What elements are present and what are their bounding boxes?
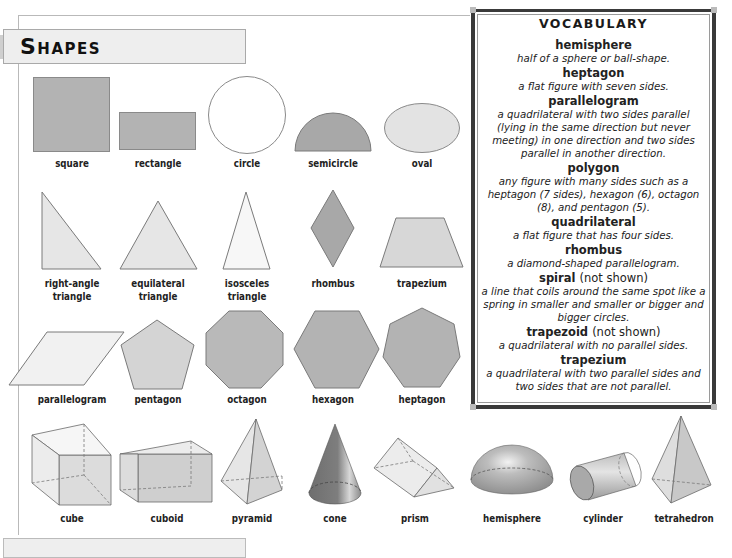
prism-shape <box>373 437 457 499</box>
cube-label: cube <box>28 512 116 525</box>
vocab-term: parallelogram <box>479 95 708 108</box>
parallelogram-shape <box>8 331 126 387</box>
vocab-definition: a flat figure with seven sides. <box>479 80 708 93</box>
cube-shape <box>31 423 113 507</box>
right-angle-triangle-label: right-angle triangle <box>28 277 116 303</box>
prism-label: prism <box>371 512 459 525</box>
rectangle-shape <box>119 112 197 152</box>
tetrahedron-shape <box>651 415 715 505</box>
vocab-term: heptagon <box>479 67 708 80</box>
corner-ornament <box>470 404 476 410</box>
cuboid-label: cuboid <box>123 512 211 525</box>
vocab-definition: any figure with many sides such as a hep… <box>479 175 708 214</box>
tetrahedron-label: tetrahedron <box>640 512 728 525</box>
isosceles-triangle-label: isosceles triangle <box>203 277 291 303</box>
title-banner: Shapes <box>3 29 246 64</box>
rectangle-label: rectangle <box>114 157 202 170</box>
equilateral-triangle-label: equilateral triangle <box>114 277 202 303</box>
vocab-term: trapezoid (not shown) <box>479 326 708 339</box>
hemisphere-shape <box>469 444 555 498</box>
isosceles-triangle-shape <box>222 191 272 271</box>
square-shape <box>33 77 111 153</box>
trapezium-shape <box>379 217 465 269</box>
parallelogram-label: parallelogram <box>28 393 116 406</box>
trapezium-label: trapezium <box>378 277 466 290</box>
vocab-term: spiral (not shown) <box>479 272 708 285</box>
corner-ornament <box>711 404 717 410</box>
vocab-term: trapezium <box>479 354 708 367</box>
cone-shape <box>307 423 363 507</box>
pyramid-shape <box>220 418 284 506</box>
cylinder-shape <box>564 450 642 506</box>
vocab-definition: half of a sphere or ball-shape. <box>479 52 708 65</box>
vocab-definition: a quadrilateral with two parallel sides … <box>479 367 708 393</box>
frame-top-line <box>18 15 470 16</box>
pentagon-shape <box>120 319 196 391</box>
hexagon-label: hexagon <box>289 393 377 406</box>
corner-ornament <box>711 7 717 13</box>
cylinder-label: cylinder <box>559 512 647 525</box>
square-label: square <box>28 157 116 170</box>
cone-label: cone <box>291 512 379 525</box>
vocab-term: polygon <box>479 162 708 175</box>
octagon-shape <box>205 310 285 390</box>
hemisphere-label: hemisphere <box>468 512 556 525</box>
semicircle-label: semicircle <box>289 157 377 170</box>
page-title: Shapes <box>20 34 101 59</box>
oval-shape <box>383 102 461 154</box>
vocab-term: hemisphere <box>479 39 708 52</box>
vocab-definition: a diamond-shaped parallelogram. <box>479 257 708 270</box>
oval-label: oval <box>378 157 466 170</box>
vocabulary-title: VOCABULARY <box>475 16 712 31</box>
circle-shape <box>207 75 287 155</box>
vocabulary-box: VOCABULARY hemisphere half of a sphere o… <box>471 9 716 409</box>
vocabulary-entries: hemisphere half of a sphere or ball-shap… <box>479 37 708 393</box>
semicircle-shape <box>294 112 372 152</box>
circle-label: circle <box>203 157 291 170</box>
hexagon-shape <box>293 310 381 390</box>
pyramid-label: pyramid <box>208 512 296 525</box>
rhombus-shape <box>310 189 356 269</box>
rhombus-label: rhombus <box>289 277 377 290</box>
cuboid-shape <box>119 440 215 506</box>
next-section-banner <box>3 538 246 558</box>
vocab-definition: a line that coils around the same spot l… <box>479 285 708 324</box>
frame-left-line <box>18 15 19 535</box>
heptagon-label: heptagon <box>378 393 466 406</box>
vocab-term: rhombus <box>479 244 708 257</box>
octagon-label: octagon <box>203 393 291 406</box>
vocab-definition: a quadrilateral with no parallel sides. <box>479 339 708 352</box>
vocab-definition: a flat figure that has four sides. <box>479 229 708 242</box>
equilateral-triangle-shape <box>119 200 199 270</box>
vocab-term: quadrilateral <box>479 216 708 229</box>
heptagon-shape <box>382 307 462 391</box>
pentagon-label: pentagon <box>114 393 202 406</box>
corner-ornament <box>470 7 476 13</box>
right-angle-triangle-shape <box>41 191 103 271</box>
vocab-definition: a quadrilateral with two sides parallel … <box>479 108 708 160</box>
